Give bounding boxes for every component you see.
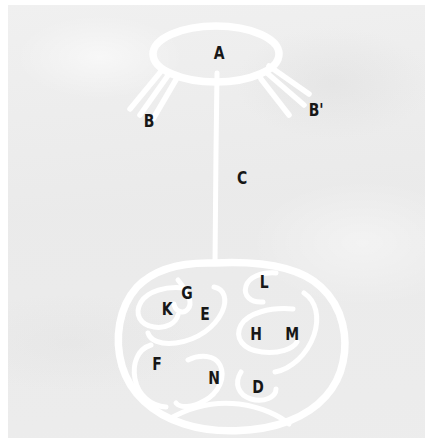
figure-frame: A B B' C L G K E H M F N D	[0, 0, 442, 447]
figure-plate: A B B' C L G K E H M F N D	[8, 5, 425, 438]
label-F: F	[150, 356, 163, 373]
label-E: E	[198, 306, 211, 323]
label-N: N	[207, 370, 220, 387]
lower-oval-internal-curves	[134, 273, 317, 424]
label-A: A	[212, 45, 225, 62]
connecting-stalk-line	[215, 73, 217, 263]
label-K: K	[160, 301, 173, 318]
label-H: H	[249, 326, 262, 343]
label-B: B	[142, 113, 155, 130]
label-G: G	[180, 285, 193, 302]
right-radiating-lines	[261, 66, 309, 115]
label-B-prime: B'	[307, 102, 325, 119]
label-L: L	[257, 274, 270, 291]
label-D: D	[251, 379, 264, 396]
label-C: C	[235, 170, 248, 187]
label-M: M	[285, 326, 300, 343]
